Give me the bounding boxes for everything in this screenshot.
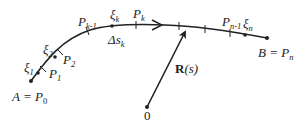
point-b	[265, 36, 269, 40]
point-a	[29, 79, 33, 83]
curve-partition-diagram: A = P0 ξ1 P1 ξ2 P2 Pk-1 ξk Pk Δsk Pn-1 ξ…	[0, 0, 308, 125]
label-xi-k: ξk	[110, 7, 120, 24]
label-xi-n: ξn	[243, 16, 253, 33]
point-xi-k	[110, 24, 114, 28]
label-xi-1: ξ1	[24, 60, 34, 77]
label-p-1: P1	[48, 66, 61, 83]
label-vector-r: R(s)	[175, 61, 198, 76]
label-p-n-minus-1: Pn-1	[221, 14, 241, 31]
label-p-k: Pk	[132, 6, 145, 23]
label-start: A = P0	[11, 89, 47, 106]
point-xi-1	[36, 71, 40, 75]
label-p-k-minus-1: Pk-1	[77, 14, 97, 31]
label-p-2: P2	[62, 52, 76, 69]
label-origin: 0	[144, 108, 151, 123]
label-end: B = Pn	[258, 45, 293, 62]
point-xi-n	[243, 33, 247, 37]
label-delta-s-k: Δsk	[107, 32, 125, 49]
label-xi-2: ξ2	[43, 42, 54, 59]
point-xi-2	[53, 55, 57, 59]
